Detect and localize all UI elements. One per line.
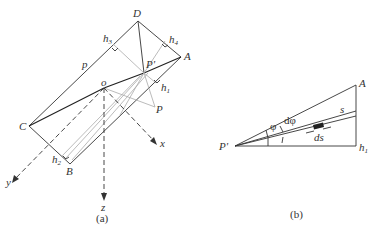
caption-b: (b) [290,208,303,221]
label-A-b: A [358,77,366,89]
right-angle-h3 [112,48,118,51]
edge-DC [29,21,138,126]
label-s: s [340,103,344,115]
label-D: D [132,7,141,19]
ds-arrow-right [323,127,331,129]
figure-b: A P' h1 s φ dφ ds (b) [218,77,368,221]
ds-element [313,123,324,130]
figure-a: D A C B P' P o p h3 h4 h1 h2 x y z (a) [5,7,191,225]
perp-aux [62,76,140,156]
right-angle-h4 [162,44,168,47]
label-phi: φ [270,120,276,132]
edge-D-Pprime [138,21,144,73]
label-B: B [66,165,73,177]
label-ds: ds [314,131,324,143]
label-P: P [155,103,163,115]
label-A: A [183,50,191,62]
label-h4: h4 [169,33,179,47]
label-P-prime: P' [145,58,156,70]
dphi-arrow-lower [282,137,283,143]
segment-o-P [104,88,155,107]
label-P-prime-b: P' [218,140,229,152]
label-x-axis: x [159,137,165,149]
label-C: C [19,120,27,132]
label-p: p [81,58,88,70]
label-dphi: dφ [284,114,296,126]
label-h3: h3 [103,32,113,46]
ds-arrow-left [306,131,314,133]
caption-a: (a) [96,212,109,225]
figure-canvas: D A C B P' P o p h3 h4 h1 h2 x y z (a) A… [0,0,374,230]
label-y-axis: y [5,176,11,188]
dphi-arrow-upper [280,126,283,132]
label-h1-b: h1 [359,141,368,155]
z-axis-arrow-icon [101,193,107,201]
label-o: o [101,76,107,88]
label-h1: h1 [161,81,170,95]
